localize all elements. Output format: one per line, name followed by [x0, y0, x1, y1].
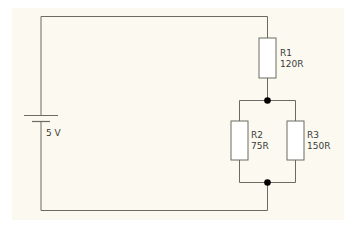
r2-label: R2 — [251, 130, 263, 140]
circuit-diagram: 5 V R1 120R R2 75R R3 150R — [0, 0, 352, 226]
resistor-r3-icon — [287, 121, 304, 160]
wire-top — [41, 17, 268, 39]
battery-icon — [24, 116, 58, 122]
r1-label: R1 — [280, 48, 292, 58]
junction-node-top-icon — [264, 97, 271, 104]
r3-label: R3 — [307, 130, 319, 140]
resistor-r1-icon — [259, 38, 276, 78]
wire-parallel-bottom — [240, 160, 296, 183]
r3-value: 150R — [307, 141, 330, 151]
r2-value: 75R — [251, 141, 269, 151]
battery-label: 5 V — [46, 128, 62, 138]
r1-value: 120R — [280, 59, 303, 69]
resistor-r2-icon — [231, 121, 248, 160]
junction-node-bottom-icon — [264, 179, 271, 186]
